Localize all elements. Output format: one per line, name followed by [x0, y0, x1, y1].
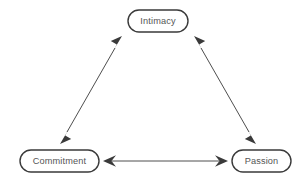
connector-commitment-passion[interactable] — [103, 155, 228, 167]
connector-layer — [60, 36, 256, 167]
node-intimacy-label: Intimacy — [140, 16, 176, 26]
connector-commitment-intimacy[interactable] — [60, 36, 122, 144]
diagram-canvas: Intimacy Commitment Passion — [0, 0, 306, 188]
node-intimacy[interactable]: Intimacy — [128, 10, 188, 32]
connector-shaft — [201, 48, 249, 132]
connector-shaft — [67, 48, 115, 132]
node-commitment-label: Commitment — [33, 156, 87, 166]
node-passion[interactable]: Passion — [232, 150, 291, 172]
node-layer: Intimacy Commitment Passion — [20, 10, 291, 172]
connector-intimacy-passion[interactable] — [194, 36, 256, 144]
node-commitment[interactable]: Commitment — [20, 150, 99, 172]
arrowhead-start — [60, 127, 71, 144]
arrowhead-start — [194, 36, 205, 53]
arrowhead-end — [111, 36, 122, 53]
node-passion-label: Passion — [245, 156, 279, 166]
arrowhead-end — [245, 127, 256, 144]
triangle-diagram: Intimacy Commitment Passion — [0, 0, 306, 188]
